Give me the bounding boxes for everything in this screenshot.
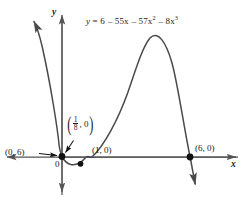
fraction-numerator: 1 [73,116,79,124]
fraction-suffix: , 0 [79,120,88,129]
graph-canvas [0,0,242,200]
label-root-six: (6, 0) [195,144,215,153]
curve-hump [92,36,190,157]
equation-cubic: – 8x3 [159,16,178,26]
curve-right-branch [190,157,195,185]
equation-quadratic: – 57x2 [132,16,156,26]
equation-equals: = [93,16,98,26]
fraction-one-eighth: 1 8 [73,116,79,133]
y-axis-label: y [52,8,56,18]
equation-lhs: y [86,16,90,26]
equation-linear: – 55x [108,16,129,26]
point-root-six [187,154,194,161]
point-root-one [78,161,84,167]
label-root-one: (1, 0) [92,146,112,155]
paren-close: ) [90,116,94,132]
fraction-denominator: 8 [73,124,79,132]
graph-figure: y=6– 55x– 57x2– 8x3 (0, 6) ( 1 8 , 0 ) (… [0,0,242,200]
equation-label: y=6– 55x– 57x2– 8x3 [86,17,178,26]
equation-constant: 6 [100,16,105,26]
curve-local-minimum [62,156,92,164]
leader-arrow-root-eighth [66,141,74,153]
x-axis-label: x [231,160,236,170]
origin-label: 0 [55,160,60,169]
label-root-eighth: ( 1 8 , 0 ) [66,116,95,133]
leader-arrow-y-intercept [39,154,57,156]
curve-left-branch [34,22,62,158]
paren-open: ( [67,116,71,132]
label-y-intercept: (0, 6) [5,148,25,157]
